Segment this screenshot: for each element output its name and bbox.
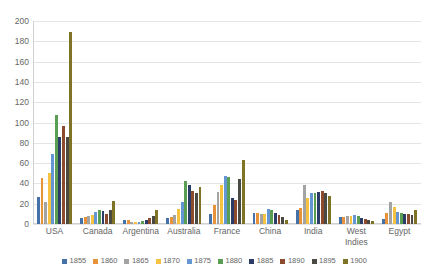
bar[interactable] <box>350 216 353 224</box>
bar[interactable] <box>37 197 40 224</box>
bar[interactable] <box>281 217 284 224</box>
bar[interactable] <box>224 176 227 224</box>
bar[interactable] <box>407 214 410 224</box>
bar[interactable] <box>41 178 44 224</box>
bar[interactable] <box>411 215 414 224</box>
bar[interactable] <box>339 217 342 224</box>
legend-item[interactable]: 1865 <box>124 257 148 265</box>
bar[interactable] <box>342 217 345 224</box>
bar[interactable] <box>195 193 198 224</box>
bar[interactable] <box>145 220 148 224</box>
bar[interactable] <box>102 211 105 224</box>
bar[interactable] <box>306 198 309 224</box>
bar[interactable] <box>44 202 47 224</box>
bar[interactable] <box>256 213 259 224</box>
legend-item[interactable]: 1875 <box>187 257 211 265</box>
bar[interactable] <box>414 210 417 224</box>
bar[interactable] <box>238 179 241 224</box>
legend-item[interactable]: 1900 <box>343 257 367 265</box>
bar[interactable] <box>385 213 388 224</box>
bar[interactable] <box>220 185 223 224</box>
bar[interactable] <box>69 32 72 224</box>
bar[interactable] <box>234 200 237 224</box>
bar[interactable] <box>274 213 277 224</box>
bar[interactable] <box>112 201 115 224</box>
bar[interactable] <box>166 218 169 224</box>
bar[interactable] <box>152 216 155 224</box>
bar[interactable] <box>403 214 406 224</box>
bar[interactable] <box>396 212 399 224</box>
bar[interactable] <box>314 193 317 224</box>
bar[interactable] <box>177 209 180 224</box>
bar[interactable] <box>324 193 327 224</box>
bar[interactable] <box>317 192 320 224</box>
bar[interactable] <box>66 137 69 224</box>
bar[interactable] <box>138 222 141 224</box>
legend-item[interactable]: 1890 <box>280 257 304 265</box>
bar[interactable] <box>62 126 65 224</box>
bar[interactable] <box>389 202 392 224</box>
bar[interactable] <box>270 210 273 224</box>
bar[interactable] <box>80 218 83 224</box>
bar[interactable] <box>382 219 385 224</box>
bar[interactable] <box>148 218 151 224</box>
bar[interactable] <box>400 213 403 224</box>
bar[interactable] <box>227 177 230 224</box>
bar[interactable] <box>260 214 263 224</box>
bar[interactable] <box>213 205 216 224</box>
bar[interactable] <box>267 209 270 224</box>
legend-item[interactable]: 1885 <box>249 257 273 265</box>
bar[interactable] <box>364 219 367 224</box>
bar[interactable] <box>242 160 245 224</box>
bar[interactable] <box>353 215 356 224</box>
legend-item[interactable]: 1860 <box>93 257 117 265</box>
bar[interactable] <box>357 216 360 224</box>
bar[interactable] <box>51 154 54 224</box>
bar[interactable] <box>109 210 112 224</box>
bar[interactable] <box>55 115 58 224</box>
bar[interactable] <box>84 217 87 224</box>
legend-item[interactable]: 1855 <box>62 257 86 265</box>
bar[interactable] <box>328 196 331 224</box>
bar[interactable] <box>134 222 137 224</box>
bar[interactable] <box>58 137 61 224</box>
bar[interactable] <box>94 212 97 224</box>
bar[interactable] <box>184 181 187 224</box>
bar[interactable] <box>296 210 299 224</box>
bar[interactable] <box>367 220 370 224</box>
bar[interactable] <box>105 214 108 224</box>
bar[interactable] <box>191 191 194 224</box>
bar[interactable] <box>123 220 126 224</box>
bar[interactable] <box>346 216 349 224</box>
bar[interactable] <box>371 221 374 224</box>
bar[interactable] <box>310 193 313 224</box>
legend-item[interactable]: 1870 <box>156 257 180 265</box>
bar[interactable] <box>130 222 133 224</box>
bar[interactable] <box>217 192 220 224</box>
bar[interactable] <box>253 213 256 224</box>
bar[interactable] <box>155 210 158 224</box>
legend-item[interactable]: 1880 <box>218 257 242 265</box>
bar[interactable] <box>173 215 176 224</box>
bar[interactable] <box>199 187 202 224</box>
bar[interactable] <box>170 217 173 224</box>
bar[interactable] <box>303 185 306 224</box>
bar[interactable] <box>360 218 363 224</box>
legend-item[interactable]: 1895 <box>312 257 336 265</box>
bar[interactable] <box>209 214 212 224</box>
bar[interactable] <box>91 215 94 224</box>
bar[interactable] <box>299 208 302 224</box>
bar[interactable] <box>127 220 130 224</box>
bar[interactable] <box>285 220 288 224</box>
bar[interactable] <box>181 202 184 224</box>
bar[interactable] <box>231 198 234 224</box>
bar[interactable] <box>278 215 281 224</box>
bar[interactable] <box>393 207 396 224</box>
bar[interactable] <box>48 173 51 224</box>
bar[interactable] <box>87 216 90 224</box>
bar[interactable] <box>98 210 101 224</box>
bar[interactable] <box>141 221 144 224</box>
bar[interactable] <box>188 185 191 224</box>
bar[interactable] <box>321 191 324 224</box>
bar[interactable] <box>263 214 266 224</box>
